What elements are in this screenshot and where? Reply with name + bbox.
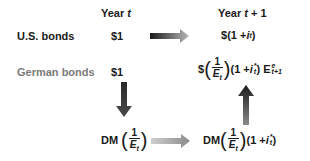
us-result-open: (1 + — [227, 29, 246, 41]
dm-invested-formula: DM ( 1 Et ) (1 + i*t ) — [203, 128, 276, 152]
fraction: 1 Et — [228, 128, 239, 152]
header-year-t-var: t — [127, 7, 131, 19]
fraction-denominator: Et — [129, 138, 140, 152]
header-year-t: Year t — [101, 7, 131, 19]
german-result-close: ) — [257, 63, 261, 75]
dm-right-close: ) — [273, 134, 277, 146]
header-year-t1-suffix: + 1 — [248, 7, 267, 19]
den-sub: t — [235, 145, 237, 152]
expected-rate-scripts: et+1 — [272, 63, 282, 76]
convert-up-arrow — [238, 85, 254, 125]
dm-right-currency: DM — [203, 134, 220, 146]
fraction-numerator: 1 — [230, 128, 238, 138]
dm-right-open: (1 + — [246, 134, 265, 146]
fraction-numerator: 1 — [131, 128, 139, 138]
dm-right-var: i — [266, 134, 269, 146]
fraction-denominator: Et — [212, 67, 223, 81]
fraction: 1 Et — [129, 128, 140, 152]
us-right-arrow — [150, 29, 190, 43]
us-bonds-label: U.S. bonds — [17, 30, 74, 42]
fraction-numerator: 1 — [214, 57, 222, 67]
german-bonds-label: German bonds — [17, 66, 95, 78]
header-year-t1-text: Year — [218, 7, 244, 19]
us-result-formula: $ (1 + it ) — [221, 29, 255, 41]
dm-converted-formula: DM ( 1 Et ) — [101, 128, 147, 152]
german-result-open: (1 + — [230, 63, 249, 75]
german-result-var: i — [250, 63, 253, 75]
dm-left-currency: DM — [101, 134, 118, 146]
german-result-formula: $ ( 1 Et ) (1 + i*t ) Eet+1 — [198, 57, 282, 81]
exp-sub: t+1 — [272, 69, 282, 75]
german-initial-amount: $1 — [111, 66, 123, 78]
header-year-t-plus-1: Year t + 1 — [218, 7, 267, 19]
us-result-close: ) — [252, 29, 256, 41]
header-year-t-text: Year — [101, 7, 127, 19]
den-sub: t — [219, 74, 221, 81]
right-paren: ) — [224, 59, 231, 80]
left-paren: ( — [121, 130, 128, 151]
convert-down-arrow — [116, 82, 132, 118]
dm-right-arrow — [151, 134, 191, 148]
left-paren: ( — [204, 59, 211, 80]
left-paren: ( — [220, 130, 227, 151]
right-paren: ) — [141, 130, 148, 151]
fraction: 1 Et — [212, 57, 223, 81]
right-paren: ) — [240, 130, 247, 151]
den-sub: t — [136, 145, 138, 152]
us-initial-amount: $1 — [111, 30, 123, 42]
fraction-denominator: Et — [228, 138, 239, 152]
expected-rate-var: E — [263, 63, 270, 75]
